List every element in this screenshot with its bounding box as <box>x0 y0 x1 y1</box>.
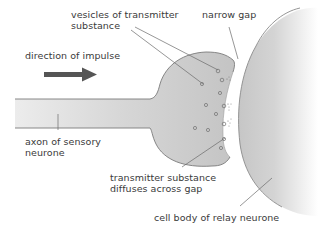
diffuses-label-line2: diffuses across gap <box>110 183 216 194</box>
right-arrow-icon <box>44 68 97 82</box>
relay-neurone-cell-body <box>239 8 318 216</box>
direction-text: direction of impulse <box>25 50 120 61</box>
vesicles-label: vesicles of transmitter substance <box>71 9 179 31</box>
cell-body-text: cell body of relay neurone <box>154 212 279 223</box>
axon-label-line1: axon of sensory <box>25 136 101 147</box>
cell-body-label: cell body of relay neurone <box>154 212 279 223</box>
diffuses-label-line1: transmitter substance <box>110 172 216 183</box>
narrow-gap-text: narrow gap <box>202 9 256 20</box>
narrow-gap-label: narrow gap <box>202 9 256 20</box>
vesicles-label-line2: substance <box>71 20 179 31</box>
direction-label: direction of impulse <box>25 50 120 61</box>
synapse-diagram: vesicles of transmitter substance narrow… <box>0 0 318 228</box>
axon-label-line2: neurone <box>25 147 101 158</box>
axon-label: axon of sensory neurone <box>25 136 101 158</box>
diffuses-label: transmitter substance diffuses across ga… <box>110 172 216 194</box>
vesicles-label-line1: vesicles of transmitter <box>71 9 179 20</box>
